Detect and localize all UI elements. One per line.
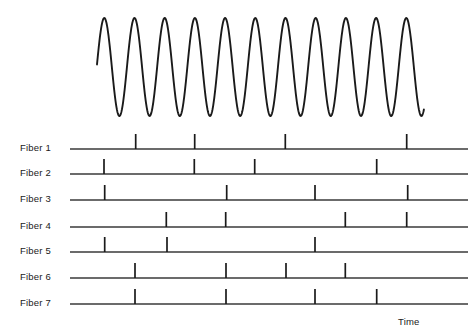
fiber-label-5: Fiber 5 (20, 245, 51, 256)
fiber-label-6: Fiber 6 (20, 271, 51, 282)
raster-row-2 (70, 159, 468, 174)
raster-row-3 (70, 185, 468, 200)
time-axis-label: Time (398, 316, 420, 327)
fiber-label-3: Fiber 3 (20, 193, 51, 204)
raster-row-7 (70, 289, 468, 304)
fiber-label-1: Fiber 1 (20, 142, 51, 153)
raster-rows (0, 0, 473, 334)
spike-raster-figure: Fiber 1Fiber 2Fiber 3Fiber 4Fiber 5Fiber… (0, 0, 473, 334)
fiber-label-7: Fiber 7 (20, 297, 51, 308)
raster-row-6 (70, 263, 468, 278)
raster-row-5 (70, 237, 468, 252)
fiber-label-2: Fiber 2 (20, 167, 51, 178)
raster-row-1 (70, 134, 468, 149)
fiber-label-4: Fiber 4 (20, 220, 51, 231)
raster-row-4 (70, 212, 468, 227)
